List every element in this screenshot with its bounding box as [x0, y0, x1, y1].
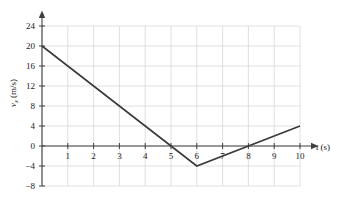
y-tick-label: 20 — [26, 41, 36, 51]
axes-group — [39, 11, 319, 187]
gridlines-group — [42, 26, 300, 186]
x-tick-label: 8 — [246, 151, 251, 161]
svg-text:vx(m/s): vx(m/s) — [8, 79, 19, 107]
x-axis-title: t(s) — [316, 142, 330, 152]
x-tick-label: 2 — [91, 151, 96, 161]
y-tick-label: 16 — [26, 61, 36, 71]
x-tick-label: 6 — [195, 151, 200, 161]
y-tick-label: 0 — [31, 141, 36, 151]
y-tick-label: 24 — [26, 21, 36, 31]
y-tick-label: 12 — [26, 81, 35, 91]
y-tick-label: 8 — [31, 101, 36, 111]
x-tick-label: 1 — [66, 151, 71, 161]
x-tick-label: 5 — [169, 151, 174, 161]
chart-canvas: 12345678910−8−404812162024 t(s) vx(m/s) — [0, 0, 339, 199]
x-tick-label: 4 — [143, 151, 148, 161]
y-axis-title: vx(m/s) — [8, 79, 19, 107]
y-tick-label: −4 — [25, 161, 35, 171]
x-tick-label: 3 — [117, 151, 122, 161]
velocity-time-graph-figure: 12345678910−8−404812162024 t(s) vx(m/s) — [0, 0, 339, 199]
y-axis-arrowhead — [39, 11, 45, 19]
y-tick-label: −8 — [25, 181, 35, 191]
x-tick-label: 9 — [272, 151, 277, 161]
x-tick-label: 10 — [296, 151, 306, 161]
y-tick-label: 4 — [31, 121, 36, 131]
